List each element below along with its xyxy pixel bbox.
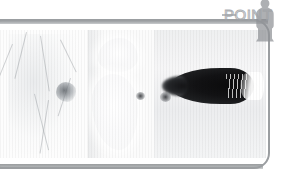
point-watermark: POINT	[222, 0, 292, 44]
watermark-label: POINT	[224, 7, 272, 22]
screenshot-root: POINT	[0, 0, 292, 177]
